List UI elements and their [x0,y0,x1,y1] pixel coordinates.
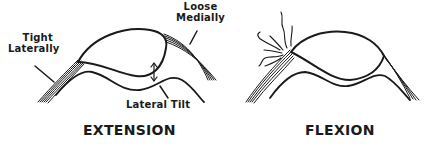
label-lateral-tilt: Lateral Tilt [126,99,190,110]
caption-extension: EXTENSION [83,122,176,138]
tilt-pointer [160,86,168,98]
medial-retinaculum-loose [164,34,216,80]
lateral-retinaculum [246,50,294,103]
label-line: Laterally [8,43,60,54]
flexion-figure [246,12,419,103]
medial-retinaculum [382,52,419,100]
label-tight-laterally: Tight Laterally [8,32,60,54]
loose-pointer [190,31,197,44]
label-line: Tight [8,32,60,43]
pain-burst-icon [258,12,292,66]
femur-groove [56,72,204,102]
label-line: Loose [176,1,225,12]
label-line: Medially [176,12,225,23]
patella-shape [78,29,166,76]
extension-figure [35,29,216,103]
tight-pointer [35,66,54,82]
label-loose-medially: Loose Medially [176,1,225,23]
femur-groove [270,72,410,100]
caption-flexion: FLEXION [305,122,375,138]
lateral-retinaculum-tight [38,60,84,103]
tilt-arrow [151,63,157,81]
